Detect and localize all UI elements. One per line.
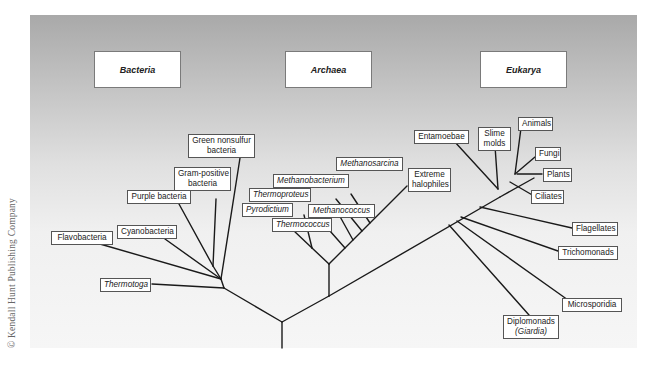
bacteria-trunk [224, 288, 282, 322]
branch-microsporidia [457, 221, 568, 300]
taxon-entamoebae: Entamoebae [414, 130, 469, 144]
branch-cyanobacteria [165, 239, 221, 279]
branch-gram-positive [213, 199, 216, 266]
taxon-green-nonsulfur-bacteria: Green nonsulfur bacteria [188, 134, 255, 158]
branch-diplomonads [449, 225, 529, 315]
branch-fungi [515, 157, 535, 174]
branch-methanococcus [330, 231, 345, 248]
taxon-ciliates: Ciliates [531, 190, 564, 204]
domain-label-bacteria: Bacteria [120, 65, 156, 75]
branch-animals [515, 128, 521, 174]
taxon-pyrodictium: Pyrodictium [242, 203, 293, 217]
taxon-slime-molds: Slime molds [478, 127, 511, 151]
taxon-diplomonads: Diplomonads (Giardia) [503, 315, 559, 339]
copyright-notice: © Kendall Hunt Publishing Company [7, 198, 17, 348]
branch-flavobacteria [100, 244, 221, 279]
branch-purple-bacteria [179, 204, 213, 266]
taxon-methanococcus: Methanococcus [308, 204, 375, 218]
taxon-thermococcus: Thermococcus [272, 218, 332, 232]
taxon-methanosarcina: Methanosarcina [336, 157, 403, 171]
archaea-eukarya-trunk [282, 296, 329, 322]
taxon-extreme-halophiles: Extreme halophiles [408, 168, 451, 192]
taxon-gram-positive-bacteria: Gram-positive bacteria [174, 167, 231, 191]
taxon-purple-bacteria: Purple bacteria [127, 190, 191, 204]
domain-box-eukarya: Eukarya [480, 51, 567, 88]
taxon-trichomonads: Trichomonads [558, 246, 618, 260]
branch-flagellates [480, 207, 572, 228]
taxon-animals: Animals [518, 117, 553, 131]
taxon-fungi: Fungi [535, 147, 561, 161]
domain-box-bacteria: Bacteria [94, 51, 181, 88]
taxon-flagellates: Flagellates [572, 222, 618, 236]
domain-label-eukarya: Eukarya [506, 65, 541, 75]
branch-thermotoga [152, 284, 224, 288]
taxon-plants: Plants [543, 168, 572, 182]
taxon-methanobacterium: Methanobacterium [273, 174, 349, 188]
branch-slime-molds [495, 146, 498, 189]
taxon-cyanobacteria: Cyanobacteria [117, 225, 177, 239]
taxon-thermotoga: Thermotoga [100, 278, 151, 292]
domain-box-archaea: Archaea [285, 51, 372, 88]
taxon-microsporidia: Microsporidia [562, 298, 622, 312]
branch-extreme-halophiles [329, 186, 407, 264]
taxon-flavobacteria: Flavobacteria [51, 231, 113, 245]
taxon-thermoproteus: Thermoproteus [249, 188, 311, 202]
domain-label-archaea: Archaea [311, 65, 347, 75]
